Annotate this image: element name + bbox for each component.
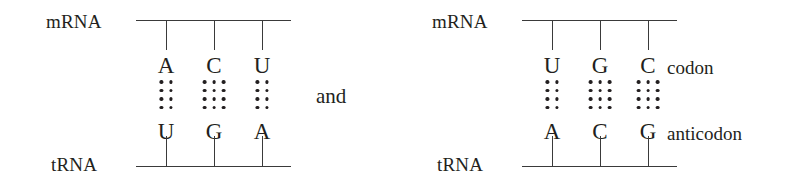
bond-dot [169, 89, 173, 93]
bond-dot [159, 97, 163, 101]
bond-dot [545, 97, 549, 101]
bond-dot [598, 106, 602, 110]
mrna-strand-label: mRNA [432, 12, 488, 31]
hydrogen-bond-3 [637, 80, 660, 109]
bond-dot [222, 97, 226, 101]
bond-dot-row [637, 106, 660, 110]
bond-dot [222, 106, 226, 110]
bond-dot-row [203, 106, 226, 110]
bond-dot [255, 106, 259, 110]
bond-dot [656, 106, 660, 110]
hydrogen-bond-3 [255, 80, 268, 109]
bond-dot-row [203, 89, 226, 93]
bond-dot [212, 80, 216, 84]
bond-dot [589, 97, 593, 101]
bond-dot-row [589, 97, 612, 101]
bond-dot [637, 89, 641, 93]
hydrogen-bond-2 [203, 80, 226, 109]
codon-base-1: A [151, 54, 181, 77]
bond-dot-row [545, 80, 558, 84]
trna-tick-1 [552, 136, 553, 166]
codon-base-3: C [633, 54, 663, 77]
codon-base-1: U [537, 54, 567, 77]
mrna-tick-1 [166, 20, 167, 50]
bond-dot [159, 106, 163, 110]
bond-dot [545, 89, 549, 93]
bond-dot [646, 89, 650, 93]
trna-tick-2 [214, 136, 215, 166]
hydrogen-bond-1 [545, 80, 558, 109]
bond-dot [646, 80, 650, 84]
bond-dot-row [203, 97, 226, 101]
bond-dot [212, 97, 216, 101]
codon-base-2: G [585, 54, 615, 77]
bond-dot [555, 80, 559, 84]
bond-dot [265, 97, 269, 101]
hydrogen-bond-2 [589, 80, 612, 109]
bond-dot [637, 80, 641, 84]
bond-dot [159, 80, 163, 84]
bond-dot [255, 80, 259, 84]
bond-dot [265, 80, 269, 84]
bond-dot-row [255, 106, 268, 110]
bond-dot-row [255, 80, 268, 84]
anticodon-annotation-label: anticodon [667, 124, 742, 143]
bond-dot [589, 106, 593, 110]
bond-dot-row [203, 80, 226, 84]
trna-tick-2 [600, 136, 601, 166]
bond-dot [598, 97, 602, 101]
codon-base-2: C [199, 54, 229, 77]
bond-dot [169, 80, 173, 84]
bond-dot [555, 97, 559, 101]
bond-dot-row [159, 80, 172, 84]
bond-dot [265, 89, 269, 93]
mrna-tick-3 [648, 20, 649, 50]
bond-dot [656, 80, 660, 84]
bond-dot [555, 89, 559, 93]
mrna-tick-2 [214, 20, 215, 50]
bond-dot [589, 89, 593, 93]
bond-dot [598, 89, 602, 93]
bond-dot-row [545, 97, 558, 101]
bond-dot-row [255, 89, 268, 93]
bond-dot [545, 106, 549, 110]
mrna-tick-2 [600, 20, 601, 50]
bond-dot [222, 80, 226, 84]
bond-dot [656, 97, 660, 101]
bond-dot-row [159, 97, 172, 101]
bond-dot [637, 97, 641, 101]
bond-dot-row [545, 89, 558, 93]
mrna-tick-1 [552, 20, 553, 50]
codon-base-3: U [247, 54, 277, 77]
bond-dot [646, 97, 650, 101]
bond-dot-row [255, 97, 268, 101]
bond-dot-row [159, 106, 172, 110]
trna-strand-label: tRNA [51, 155, 97, 174]
trna-tick-1 [166, 136, 167, 166]
codon-anticodon-figure: mRNA tRNA A U C G U [0, 0, 792, 194]
bond-dot-row [159, 89, 172, 93]
base-pairing-diagram-left: mRNA tRNA A U C G U [18, 0, 348, 194]
bond-dot-row [545, 106, 558, 110]
trna-backbone-line [136, 166, 291, 167]
bond-dot [203, 80, 207, 84]
trna-tick-3 [648, 136, 649, 166]
bond-dot [255, 89, 259, 93]
hydrogen-bond-1 [159, 80, 172, 109]
bond-dot [608, 89, 612, 93]
trna-tick-3 [262, 136, 263, 166]
bond-dot [159, 89, 163, 93]
bond-dot-row [589, 80, 612, 84]
bond-dot-row [637, 89, 660, 93]
mrna-strand-label: mRNA [46, 12, 102, 31]
bond-dot [646, 106, 650, 110]
bond-dot [589, 80, 593, 84]
trna-backbone-line [522, 166, 677, 167]
bond-dot [255, 97, 259, 101]
bond-dot-row [589, 106, 612, 110]
bond-dot [656, 89, 660, 93]
bond-dot [203, 97, 207, 101]
bond-dot [608, 97, 612, 101]
bond-dot [608, 106, 612, 110]
bond-dot [637, 106, 641, 110]
